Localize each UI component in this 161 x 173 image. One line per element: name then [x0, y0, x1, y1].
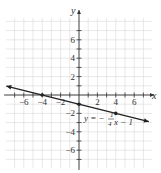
y-tick-label: −4	[65, 127, 75, 137]
x-axis-label: x	[151, 90, 157, 101]
x-tick-label: 2	[95, 97, 100, 107]
y-tick-label: 6	[71, 35, 76, 45]
data-point	[77, 102, 81, 106]
equation-numerator: 1	[110, 111, 114, 119]
x-tick-label: 4	[114, 97, 119, 107]
equation-denominator: 4	[108, 120, 112, 128]
equation-suffix: x − 1	[113, 117, 133, 127]
axes	[4, 10, 154, 170]
x-tick-label: −6	[19, 97, 29, 107]
y-axis-arrow-icon	[77, 10, 81, 14]
equation-prefix: y = −	[83, 113, 105, 123]
data-point	[40, 93, 44, 97]
y-tick-label: 2	[71, 72, 76, 82]
coordinate-plane: −6−4−2246−6−4−2246 x y y = − 1 4 x − 1	[0, 0, 161, 173]
x-tick-label: −4	[37, 97, 47, 107]
y-axis-label: y	[70, 5, 76, 16]
data-point	[114, 112, 118, 116]
y-tick-label: 4	[71, 53, 76, 63]
x-tick-label: 6	[132, 97, 137, 107]
y-tick-label: −6	[65, 145, 75, 155]
y-tick-label: −2	[65, 108, 75, 118]
